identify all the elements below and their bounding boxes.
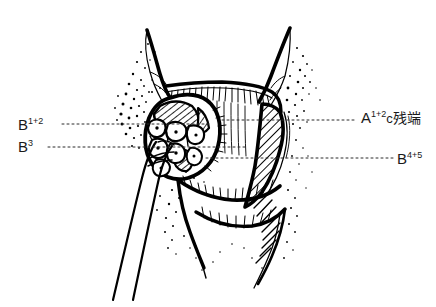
- label-a1plus2c-base: A: [361, 109, 371, 126]
- stipple-texture: [114, 43, 321, 271]
- label-b4plus5-base: B: [397, 150, 407, 167]
- label-b1plus2: B1+2: [18, 117, 43, 132]
- label-b4plus5: B4+5: [397, 151, 422, 166]
- lower-right-hatching: [254, 194, 280, 263]
- label-b1plus2-superscript: 1+2: [28, 116, 43, 126]
- label-a1plus2c-stump-text: 残端: [393, 110, 421, 126]
- label-b4plus5-superscript: 4+5: [407, 150, 422, 160]
- label-b3-base: B: [18, 138, 28, 155]
- label-a1plus2c-superscript: 1+2: [371, 109, 386, 119]
- central-cut-surface: [145, 95, 227, 180]
- drawing-ink: [48, 28, 393, 300]
- lung-segmentectomy-drawing: [0, 0, 436, 307]
- label-b3: B3: [18, 139, 33, 154]
- lower-tissue-folds: [178, 176, 285, 288]
- anatomical-figure: B1+2 B3 A1+2c残端 B4+5: [0, 0, 436, 307]
- label-a1plus2c-stump: A1+2c残端: [361, 110, 421, 125]
- label-b1plus2-base: B: [18, 116, 28, 133]
- right-hatched-cut-plane: [245, 104, 290, 207]
- left-lobe-apex: [146, 30, 171, 101]
- label-b3-superscript: 3: [28, 138, 33, 148]
